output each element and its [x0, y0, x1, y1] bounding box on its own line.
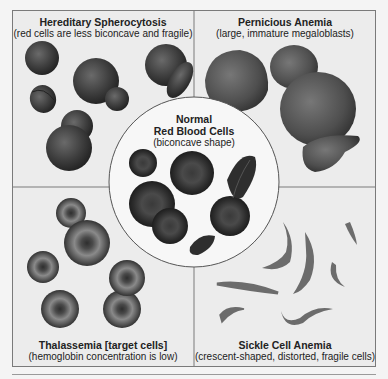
quadrant-subtitle: (red cells are less biconcave and fragil…	[12, 28, 194, 40]
center-subtitle: (biconcave shape)	[130, 137, 258, 149]
center-title-line1: Normal	[130, 113, 258, 125]
label-normal-rbc: Normal Red Blood Cells (biconcave shape)	[130, 113, 258, 149]
center-title-line2: Red Blood Cells	[130, 125, 258, 137]
quadrant-subtitle: (crescent-shaped, distorted, fragile cel…	[194, 351, 376, 363]
quadrant-subtitle: (large, immature megaloblasts)	[194, 28, 376, 40]
label-pernicious-anemia: Pernicious Anemia (large, immature megal…	[194, 16, 376, 40]
red-blood-cell-illustration	[0, 0, 388, 379]
bottom-divider	[12, 374, 376, 375]
quadrant-title: Sickle Cell Anemia	[194, 339, 376, 351]
label-hereditary-spherocytosis: Hereditary Spherocytosis (red cells are …	[12, 16, 194, 40]
quadrant-title: Thalassemia [target cells]	[12, 339, 194, 351]
quadrant-title: Hereditary Spherocytosis	[12, 16, 194, 28]
quadrant-subtitle: (hemoglobin concentration is low)	[12, 351, 194, 363]
label-thalassemia: Thalassemia [target cells] (hemoglobin c…	[12, 339, 194, 363]
quadrant-title: Pernicious Anemia	[194, 16, 376, 28]
label-sickle-cell-anemia: Sickle Cell Anemia (crescent-shaped, dis…	[194, 339, 376, 363]
